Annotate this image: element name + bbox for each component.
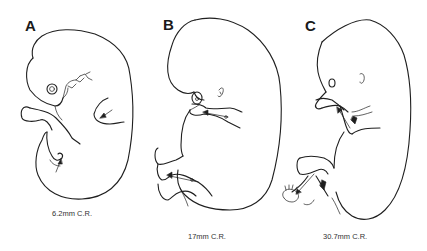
panel-a: A 6.2mm C.R. [0,0,150,251]
figure: A 6.2mm C.R. [0,0,427,251]
caption-c: 30.7mm C.R. [323,232,367,241]
caption-a: 6.2mm C.R. [52,209,92,218]
caption-b: 17mm C.R. [188,232,226,241]
panel-b: B 17 [140,0,290,251]
embryo-c-illustration [280,0,427,251]
embryo-b-illustration [140,0,290,251]
panel-c: C [280,0,427,251]
